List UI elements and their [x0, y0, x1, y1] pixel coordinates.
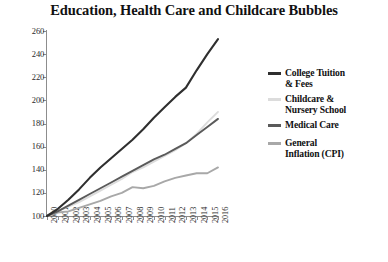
series-layer — [0, 0, 388, 262]
legend-item-general-inflation-cpi[interactable]: General Inflation (CPI) — [268, 138, 344, 159]
chart-container: Education, Health Care and Childcare Bub… — [0, 0, 388, 262]
legend-label-general-inflation-cpi: General Inflation (CPI) — [285, 138, 344, 159]
series-line-medical-care — [47, 119, 218, 216]
legend-label-childcare-nursery-school: Childcare & Nursery School — [285, 94, 346, 115]
legend-swatch-medical-care — [268, 124, 281, 127]
series-line-college-tuition-fees — [47, 39, 218, 216]
series-line-general-inflation-cpi — [47, 167, 218, 216]
legend-item-childcare-nursery-school[interactable]: Childcare & Nursery School — [268, 94, 346, 115]
series-line-childcare-nursery-school — [47, 112, 218, 216]
legend-item-college-tuition-fees[interactable]: College Tuition & Fees — [268, 68, 345, 89]
legend-label-college-tuition-fees: College Tuition & Fees — [285, 68, 345, 89]
legend-item-medical-care[interactable]: Medical Care — [268, 120, 339, 131]
legend-swatch-college-tuition-fees — [268, 72, 281, 75]
legend-swatch-childcare-nursery-school — [268, 98, 281, 101]
legend-swatch-general-inflation-cpi — [268, 142, 281, 145]
legend-label-medical-care: Medical Care — [285, 120, 339, 131]
